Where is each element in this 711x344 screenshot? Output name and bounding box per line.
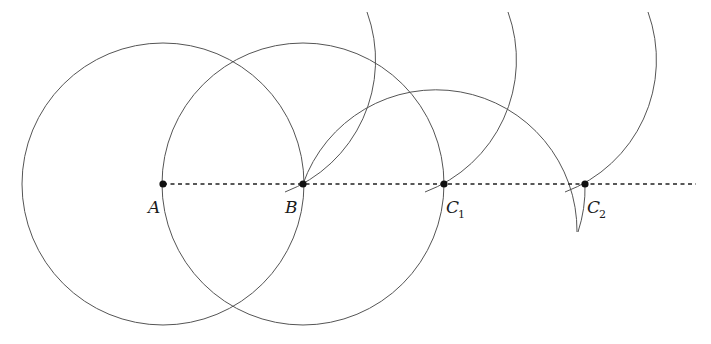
label-a: A	[146, 197, 160, 217]
point-c2	[581, 180, 588, 187]
label-b: B	[284, 197, 298, 217]
point-b	[299, 180, 306, 187]
label-c2-subscript: 2	[599, 208, 606, 221]
point-c1	[440, 180, 447, 187]
point-a	[159, 180, 166, 187]
construction-diagram: A B C 1 C 2	[0, 0, 711, 344]
arc-through-b	[285, 12, 376, 192]
circle-c1-partial	[303, 90, 577, 232]
arc-through-c2	[565, 12, 656, 192]
arc-c2-lower-tail	[578, 184, 585, 232]
arc-through-c1	[425, 12, 516, 192]
label-c1-subscript: 1	[458, 208, 465, 221]
